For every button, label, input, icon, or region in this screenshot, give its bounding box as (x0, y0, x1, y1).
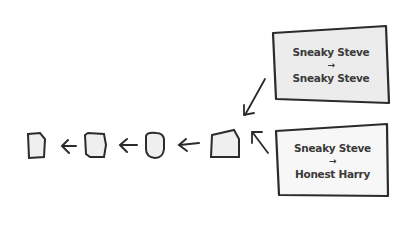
block-2-icon (85, 133, 106, 157)
chain-arrow-2-icon (120, 139, 137, 152)
transaction-box-1: Sneaky Steve → Sneaky Steve (276, 31, 386, 99)
transaction-2-pointer-icon (252, 132, 268, 153)
chain-arrow-1-icon (62, 140, 76, 153)
transaction-1-from: Sneaky Steve (293, 45, 370, 59)
block-1-icon (28, 133, 45, 158)
chain-arrow-3-icon (179, 139, 199, 151)
block-4-icon (211, 130, 239, 157)
transaction-2-arrow-icon: → (329, 155, 336, 167)
transaction-2-to: Honest Harry (295, 167, 370, 181)
transaction-1-arrow-icon: → (327, 59, 334, 71)
block-3-icon (146, 133, 164, 158)
transaction-1-pointer-icon (244, 79, 265, 115)
transaction-1-to: Sneaky Steve (293, 71, 370, 85)
transaction-2-from: Sneaky Steve (294, 141, 371, 155)
transaction-box-2: Sneaky Steve → Honest Harry (279, 129, 386, 193)
